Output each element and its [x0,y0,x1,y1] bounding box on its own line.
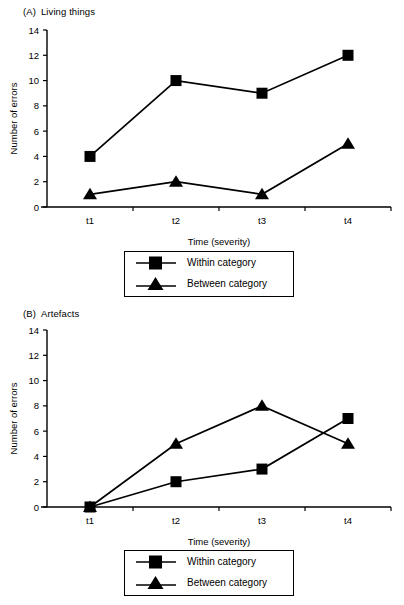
y-tick-label: 14 [28,25,39,36]
data-point-square [171,75,182,86]
chart-a-plot-area: 02468101214t1t2t3t4Time (severity)Number… [0,0,404,250]
x-tick-label: t1 [86,215,94,226]
legend-label-between: Between category [187,278,267,289]
y-tick-label: 12 [28,350,39,361]
x-axis-title: Time (severity) [188,236,250,247]
data-point-square [343,50,354,61]
data-point-triangle [169,175,183,187]
x-tick-label: t4 [344,215,352,226]
data-point-triangle [169,437,183,449]
x-tick-label: t4 [344,515,352,526]
legend-item-between[interactable]: Between category [125,572,293,593]
triangle-marker-icon [134,574,178,592]
x-tick-label: t2 [172,215,180,226]
chart-b-legend: Within category Between category [124,550,294,596]
y-tick-label: 4 [34,151,39,162]
data-point-square [85,151,96,162]
y-tick-label: 10 [28,75,39,86]
x-tick-label: t3 [258,215,266,226]
y-tick-label: 6 [34,126,39,137]
legend-label-between: Between category [187,577,267,588]
x-tick-label: t3 [258,515,266,526]
square-marker-icon [134,553,178,571]
panel-artefacts: (B)Artefacts 02468101214t1t2t3t4Time (se… [0,302,404,605]
legend-label-within: Within category [187,556,256,567]
data-point-square [343,413,354,424]
y-tick-label: 0 [34,202,39,213]
triangle-marker-icon [134,275,178,293]
legend-item-between[interactable]: Between category [125,273,293,294]
y-tick-label: 14 [28,325,39,336]
y-tick-label: 10 [28,375,39,386]
legend-item-within[interactable]: Within category [125,551,293,572]
data-point-square [171,476,182,487]
data-point-square [257,464,268,475]
y-tick-label: 6 [34,426,39,437]
series-line [90,55,348,156]
y-axis-title: Number of errors [8,382,19,454]
data-point-triangle [341,137,355,149]
chart-a-legend: Within category Between category [124,251,294,297]
y-tick-label: 2 [34,176,39,187]
x-tick-label: t1 [86,515,94,526]
panel-living-things: (A)Living things 02468101214t1t2t3t4Time… [0,0,404,302]
data-point-triangle [341,437,355,449]
legend-item-within[interactable]: Within category [125,252,293,273]
y-axis-title: Number of errors [8,82,19,154]
y-tick-label: 4 [34,451,39,462]
x-tick-label: t2 [172,515,180,526]
square-marker-icon [134,254,178,272]
y-tick-label: 2 [34,476,39,487]
data-point-square [257,88,268,99]
data-point-triangle [255,399,269,411]
y-tick-label: 0 [34,502,39,513]
chart-b-plot-area: 02468101214t1t2t3t4Time (severity)Number… [0,302,404,552]
legend-label-within: Within category [187,257,256,268]
y-tick-label: 12 [28,50,39,61]
series-line [90,144,348,195]
y-tick-label: 8 [34,100,39,111]
x-axis-title: Time (severity) [188,536,250,547]
series-line [90,406,348,507]
series-line [90,419,348,508]
y-tick-label: 8 [34,400,39,411]
